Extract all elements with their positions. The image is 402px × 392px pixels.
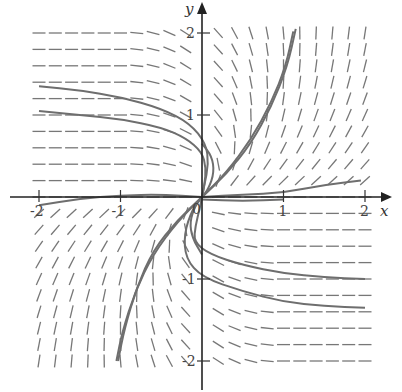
field-segment (345, 142, 352, 153)
field-segment (212, 244, 224, 249)
field-segment (70, 305, 73, 318)
field-segment (248, 158, 254, 169)
field-segment (245, 359, 258, 362)
field-segment (279, 176, 288, 185)
field-segment (244, 229, 257, 231)
field-segment (298, 92, 301, 105)
field-segment (151, 355, 155, 367)
field-segment (70, 322, 72, 335)
field-segment (38, 355, 40, 368)
field-segment (347, 59, 350, 72)
field-segment (130, 32, 143, 33)
field-segment (250, 76, 252, 89)
field-segment (261, 246, 274, 247)
field-segment (86, 289, 89, 302)
field-segment (84, 225, 92, 235)
field-segment (169, 240, 170, 253)
field-segment (213, 308, 224, 315)
field-segment (362, 109, 367, 121)
field-segment (245, 278, 258, 281)
field-segment (263, 176, 272, 185)
field-segment (214, 61, 223, 71)
field-segment (229, 293, 241, 298)
field-segment (347, 76, 350, 89)
field-segment (136, 273, 138, 286)
field-segment (214, 77, 223, 87)
field-segment (348, 43, 350, 56)
field-segment (130, 114, 143, 115)
field-segment (163, 146, 176, 150)
field-segment (181, 340, 190, 350)
field-segment (212, 260, 224, 266)
field-segment (229, 358, 241, 363)
field-segment (295, 176, 304, 185)
field-segment (130, 164, 143, 165)
field-segment (261, 278, 274, 279)
field-segment (328, 159, 336, 169)
field-segment (360, 176, 370, 185)
field-segment (212, 212, 225, 215)
field-segment (232, 44, 238, 56)
field-segment (130, 82, 143, 83)
field-segment (147, 130, 160, 132)
field-segment (149, 209, 158, 219)
field-segment (348, 27, 350, 40)
y-tick-label: -1 (182, 271, 196, 287)
field-segment (163, 47, 175, 52)
field-segment (36, 273, 41, 285)
field-segment (71, 338, 73, 351)
field-segment (99, 209, 108, 218)
field-segment (283, 43, 284, 56)
field-segment (103, 305, 105, 318)
field-segment (233, 109, 237, 122)
field-segment (245, 327, 258, 330)
field-segment (250, 92, 252, 105)
field-segment (265, 142, 270, 154)
field-segment (38, 338, 40, 351)
field-segment (261, 311, 274, 312)
field-segment (283, 92, 285, 105)
field-segment (344, 159, 352, 169)
field-segment (245, 343, 258, 346)
field-segment (167, 322, 173, 334)
field-segment (234, 125, 236, 138)
field-segment (266, 43, 268, 56)
field-segment (168, 256, 170, 269)
field-segment (234, 141, 235, 154)
field-segment (132, 209, 141, 218)
field-segment (168, 273, 172, 286)
field-segment (87, 322, 89, 335)
field-segment (180, 95, 191, 102)
field-segment (167, 306, 172, 318)
field-segment (261, 327, 274, 328)
field-segment (363, 93, 368, 105)
field-segment (363, 76, 367, 88)
field-segment (213, 341, 224, 348)
field-segment (52, 257, 58, 268)
field-segment (87, 338, 88, 351)
field-segment (86, 273, 90, 285)
field-segment (54, 322, 57, 335)
field-segment (181, 290, 190, 300)
field-segment (101, 241, 107, 252)
field-segment (152, 322, 155, 335)
field-segment (213, 357, 224, 364)
field-segment (299, 59, 300, 72)
field-segment (163, 96, 175, 101)
field-segment (180, 79, 191, 86)
field-segment (297, 125, 302, 137)
y-tick-label: 1 (186, 107, 195, 123)
field-segment (249, 43, 253, 55)
field-segment (261, 229, 274, 230)
field-segment (213, 292, 224, 299)
field-segment (283, 27, 284, 40)
field-segment (217, 158, 219, 171)
field-segment (316, 27, 317, 40)
field-segment (249, 59, 252, 72)
field-segment (214, 45, 223, 55)
field-segment (163, 63, 175, 68)
field-segment (87, 305, 89, 318)
field-segment (332, 43, 334, 56)
field-segment (346, 109, 351, 121)
field-segment (152, 289, 154, 302)
